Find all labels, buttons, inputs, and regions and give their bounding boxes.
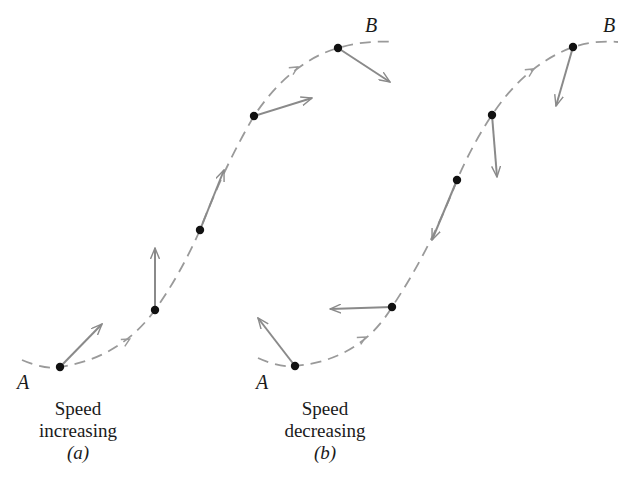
- velocity-vector-arrow: [200, 170, 224, 230]
- position-point: [334, 44, 342, 52]
- position-point: [56, 363, 64, 371]
- trajectory-path: [22, 42, 395, 368]
- direction-chevron-icon: [525, 66, 536, 77]
- velocity-vector-arrow: [60, 324, 102, 367]
- caption-line1: Speed: [18, 398, 138, 420]
- velocity-vector-arrow: [492, 115, 497, 177]
- point-label-a-panel-a: A: [17, 371, 29, 394]
- caption-speed-increasing: Speed increasing (a): [18, 398, 138, 464]
- velocity-vector-arrow: [556, 47, 573, 106]
- point-label-a-panel-b: A: [256, 371, 268, 394]
- position-point: [488, 111, 496, 119]
- caption-line2: decreasing: [265, 420, 385, 442]
- position-point: [388, 303, 396, 311]
- position-point: [151, 306, 159, 314]
- panel-speed-increasing: [22, 42, 395, 372]
- position-point: [196, 226, 204, 234]
- trajectory-path: [258, 42, 618, 367]
- position-point: [291, 362, 299, 370]
- point-label-b-panel-b: B: [603, 14, 615, 37]
- position-point: [453, 176, 461, 184]
- velocity-vector-arrow: [330, 307, 392, 309]
- velocity-vector-arrow: [258, 318, 295, 366]
- caption-sub: (a): [18, 442, 138, 464]
- caption-sub: (b): [265, 442, 385, 464]
- position-point: [569, 43, 577, 51]
- caption-line2: increasing: [18, 420, 138, 442]
- panel-speed-decreasing: [258, 42, 618, 371]
- caption-speed-decreasing: Speed decreasing (b): [265, 398, 385, 464]
- position-point: [250, 112, 258, 120]
- velocity-vector-arrow: [338, 48, 390, 82]
- caption-line1: Speed: [265, 398, 385, 420]
- velocity-vector-arrow: [254, 98, 312, 116]
- velocity-vector-arrow: [432, 180, 457, 240]
- point-label-b-panel-a: B: [365, 14, 377, 37]
